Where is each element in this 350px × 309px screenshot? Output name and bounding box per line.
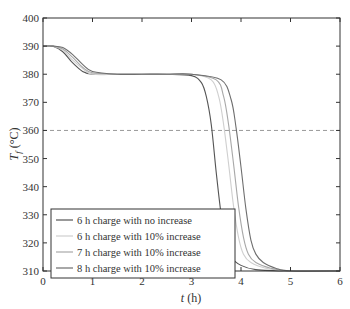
x-tick-label: 5	[288, 275, 294, 287]
y-tick-label: 360	[23, 124, 40, 136]
x-tick-label: 6	[337, 275, 343, 287]
line-chart: 0123456 310320330340350360370380390400 t…	[0, 0, 350, 309]
legend-entry-2: 6 h charge with 10% increase	[77, 231, 201, 242]
y-tick-label: 340	[23, 181, 40, 193]
legend-entry-1: 6 h charge with no increase	[77, 215, 192, 226]
y-tick-label: 350	[23, 153, 40, 165]
y-tick-label: 390	[23, 40, 40, 52]
y-axis-label: Tf (°C)	[7, 127, 23, 160]
legend-entry-4: 8 h charge with 10% increase	[77, 263, 201, 274]
x-tick-label: 4	[238, 275, 244, 287]
y-tick-label: 310	[23, 265, 40, 277]
y-tick-label: 320	[23, 237, 40, 249]
y-tick-label: 370	[23, 96, 40, 108]
x-tick-label: 0	[40, 275, 46, 287]
y-tick-label: 400	[23, 12, 40, 24]
y-tick-label: 380	[23, 68, 40, 80]
legend: 6 h charge with no increase6 h charge wi…	[51, 209, 235, 278]
x-axis-label: t (h)	[181, 291, 201, 305]
y-tick-label: 330	[23, 209, 40, 221]
legend-entry-3: 7 h charge with 10% increase	[77, 247, 201, 258]
